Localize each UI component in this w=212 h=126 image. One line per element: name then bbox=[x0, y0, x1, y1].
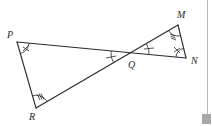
page-corner-square bbox=[202, 114, 211, 124]
angle-arc-Q-right bbox=[147, 44, 150, 55]
segment-PN bbox=[17, 42, 186, 58]
point-label-Q: Q bbox=[128, 60, 135, 70]
segment-PR bbox=[17, 42, 36, 108]
point-label-R: R bbox=[29, 112, 35, 122]
point-label-N: N bbox=[191, 56, 198, 66]
page-edge-rule bbox=[207, 0, 208, 114]
angle-arc-R bbox=[33, 95, 48, 101]
segment-RM bbox=[36, 25, 178, 108]
segment-MN bbox=[178, 25, 186, 58]
angle-arc-M bbox=[169, 31, 181, 36]
point-label-M: M bbox=[177, 10, 185, 20]
angle-tick-Q-right bbox=[144, 48, 154, 49]
point-label-P: P bbox=[7, 30, 13, 40]
